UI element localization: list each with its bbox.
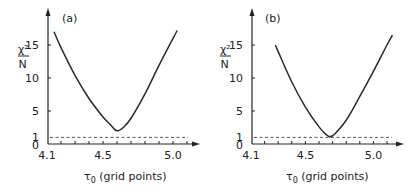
y-tick-label: 5 (32, 105, 39, 118)
y-label-denominator: N (19, 58, 27, 71)
y-axis-arrow-icon (250, 8, 255, 16)
panel-a: 4.14.55.00151015(a)χ²Nτ0 (grid points) (18, 8, 200, 185)
x-tick-label: 4.1 (38, 149, 56, 162)
x-tick-label: 4.5 (94, 149, 112, 162)
panel-label: (b) (265, 12, 281, 25)
y-tick-label: 1 (32, 131, 39, 144)
x-label: τ0 (grid points) (84, 170, 167, 185)
y-label-denominator: N (221, 58, 229, 71)
y-label-numerator: χ² (220, 43, 231, 56)
y-tick-label: 10 (25, 72, 39, 85)
panel-b: 4.14.55.00151015(b)χ²Nτ0 (grid points) (220, 8, 404, 185)
x-label: τ0 (grid points) (286, 170, 369, 185)
y-tick-label: 15 (229, 39, 243, 52)
chi2-curve (275, 35, 392, 137)
x-axis-arrow-icon (396, 142, 404, 147)
panel-label: (a) (62, 12, 77, 25)
x-axis-arrow-icon (192, 142, 200, 147)
x-tick-label: 4.5 (297, 149, 315, 162)
figure: 4.14.55.00151015(a)χ²Nτ0 (grid points) 4… (0, 0, 411, 189)
x-label-unit: (grid points) (96, 170, 167, 183)
chi2-curve (54, 30, 177, 130)
x-label-unit: (grid points) (298, 170, 369, 183)
y-tick-label: 5 (236, 105, 243, 118)
x-tick-label: 5.0 (164, 149, 182, 162)
x-tick-label: 4.1 (242, 149, 260, 162)
y-label-numerator: χ² (18, 43, 29, 56)
x-tick-label: 5.0 (365, 149, 383, 162)
y-tick-label: 10 (229, 72, 243, 85)
y-tick-label: 1 (236, 131, 243, 144)
y-axis-arrow-icon (46, 8, 51, 16)
